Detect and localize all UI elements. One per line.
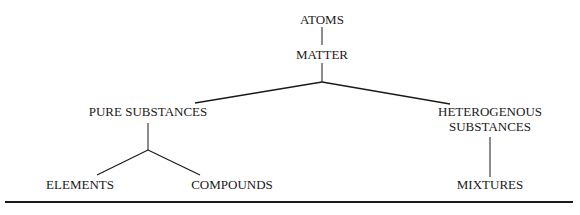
node-matter: MATTER xyxy=(296,47,348,62)
edge-pure-substances-elements xyxy=(97,150,148,175)
node-compounds: COMPOUNDS xyxy=(191,177,273,192)
node-atoms: ATOMS xyxy=(300,12,344,27)
edge-pure-substances-compounds xyxy=(148,150,200,175)
node-heterogenous-line2: SUBSTANCES xyxy=(438,119,542,134)
edge-matter-pure-substances xyxy=(195,82,322,103)
classification-diagram: ATOMS MATTER PURE SUBSTANCES HETEROGENOU… xyxy=(0,0,580,215)
node-heterogenous-line1: HETEROGENOUS xyxy=(438,104,542,119)
edge-matter-heterogenous xyxy=(322,82,450,104)
node-pure-substances: PURE SUBSTANCES xyxy=(89,104,208,119)
node-heterogenous-substances: HETEROGENOUS SUBSTANCES xyxy=(438,104,542,134)
node-elements: ELEMENTS xyxy=(46,177,114,192)
node-mixtures: MIXTURES xyxy=(457,177,523,192)
